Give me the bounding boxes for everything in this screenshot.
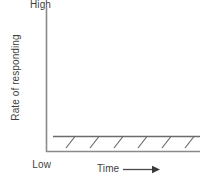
y-axis-low-label: Low	[20, 159, 51, 170]
y-axis-title: Rate of responding	[10, 18, 21, 138]
reinforcement-hatch-marks	[66, 137, 194, 149]
y-axis-high-label: High	[20, 0, 51, 10]
hatch-mark	[185, 137, 194, 149]
hatch-mark	[162, 137, 171, 149]
hatch-mark	[114, 137, 123, 149]
hatch-mark	[90, 137, 99, 149]
hatch-mark	[138, 137, 147, 149]
chart-figure: High Low Rate of responding Time	[0, 0, 206, 182]
arrow-right-icon	[123, 166, 160, 174]
chart-canvas	[0, 0, 206, 182]
x-axis-title: Time	[97, 163, 119, 174]
hatch-mark	[66, 137, 75, 149]
